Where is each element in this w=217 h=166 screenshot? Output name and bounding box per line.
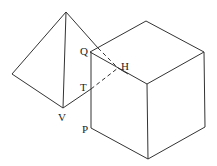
- cube-edge-bottom-right: [148, 127, 205, 159]
- cube-edge-front: [147, 84, 148, 159]
- hidden-edge-t-h: [91, 68, 118, 89]
- cube-edge-bottom-left: [91, 128, 148, 159]
- pyramid-edge-left-v: [12, 74, 63, 108]
- diagram-lines: [0, 0, 217, 166]
- label-t: T: [80, 82, 87, 93]
- label-q: Q: [80, 46, 88, 57]
- pyramid-edge-apex-left: [12, 12, 66, 74]
- label-v: V: [58, 112, 66, 123]
- label-h: H: [121, 61, 129, 72]
- label-p: P: [82, 124, 88, 135]
- diagram-canvas: Q H T V P: [0, 0, 217, 166]
- cube-edge-right: [204, 52, 205, 127]
- pyramid-edge-apex-q: [66, 12, 98, 48]
- pyramid-edge-apex-v: [63, 12, 66, 108]
- cube-top-face: [90, 21, 204, 84]
